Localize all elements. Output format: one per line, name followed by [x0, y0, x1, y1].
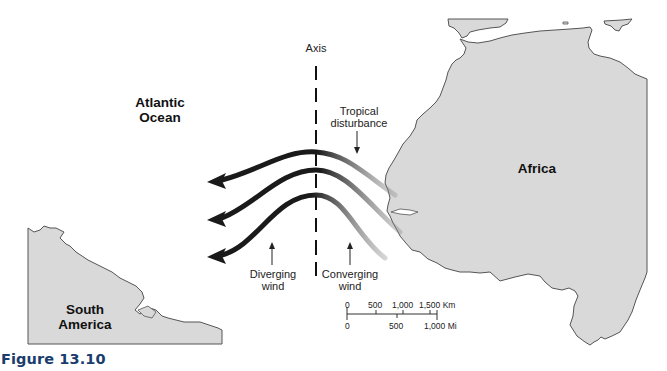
streamline-1: [222, 152, 395, 195]
ocean-label-line2: Ocean: [130, 110, 190, 125]
tropical-line2: disturbance: [325, 117, 393, 129]
converging-wind-label: Converging wind: [318, 268, 382, 293]
tropical-disturbance-label: Tropical disturbance: [325, 105, 393, 130]
axis-label: Axis: [298, 42, 334, 54]
south-america-line2: America: [50, 317, 120, 332]
balearic-islet: [563, 22, 568, 24]
converging-line1: Converging: [318, 268, 382, 280]
scale-km-1500: 1,500 Km: [419, 300, 455, 310]
converging-line2: wind: [318, 280, 382, 292]
scale-km-0: 0: [345, 300, 350, 310]
scale-mi-0: 0: [345, 321, 350, 331]
scale-km-1000: 1,000: [392, 300, 413, 310]
wind-streamlines: [222, 152, 400, 258]
diverging-line1: Diverging: [246, 268, 300, 280]
south-america-line1: South: [50, 302, 120, 317]
sicily-landmass: [604, 19, 632, 31]
africa-label: Africa: [512, 161, 562, 176]
scale-km-500: 500: [368, 300, 382, 310]
diverging-wind-arrow: [269, 242, 275, 265]
africa-landmass: [385, 27, 647, 345]
scale-mi-1000: 1,000 Mi: [424, 321, 457, 331]
tropical-line1: Tropical: [325, 105, 393, 117]
diverging-line2: wind: [246, 280, 300, 292]
scale-mi-500: 500: [389, 321, 403, 331]
spain-landmass: [448, 19, 508, 38]
figure-caption: Figure 13.10: [1, 351, 106, 367]
diverging-wind-label: Diverging wind: [246, 268, 300, 293]
atlantic-ocean-label: Atlantic Ocean: [130, 95, 190, 125]
tropical-disturbance-arrow: [354, 131, 360, 154]
ocean-label-line1: Atlantic: [130, 95, 190, 110]
converging-wind-arrow: [347, 242, 353, 265]
south-america-label: South America: [50, 302, 120, 332]
